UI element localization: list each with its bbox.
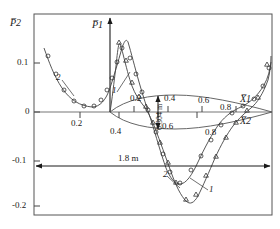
y-tick-0.1: 0.1 (17, 58, 28, 67)
x-upper-tick-0.2: 0.2 (130, 94, 141, 103)
figure-container: P̅2 P̅1 X̅1 X̅2 0.1 0 -0.1 -0.2 0.2 0.4 … (0, 0, 280, 229)
x-upper-tick-0.6: 0.6 (198, 96, 209, 105)
plot-svg (0, 0, 280, 229)
series-1-label-top: 1 (112, 86, 117, 95)
x1-axis-label: X̅1 (240, 94, 251, 104)
x-upper-tick-0.8: 0.8 (220, 103, 231, 112)
p2-axis-label: P̅2 (10, 18, 21, 28)
width-dimension-label: 1.8 m (118, 154, 139, 163)
x2-axis-label: X̅2 (240, 116, 251, 126)
y-tick-neg0.2: -0.2 (12, 201, 26, 210)
x-lower-tick-0.4: 0.4 (110, 127, 121, 136)
series-2-label-bottom: 2 (163, 170, 168, 179)
x-lower-tick-0.8: 0.8 (205, 128, 216, 137)
annotation-leaders (62, 72, 208, 190)
series-1-label-bottom: 1 (209, 185, 214, 194)
x-axis-lower-ticks (80, 112, 197, 118)
y-axis-ticks (34, 63, 40, 206)
x-upper-tick-0.4: 0.4 (164, 94, 175, 103)
series-2-label-left: 2 (56, 73, 61, 82)
y-tick-neg0.1: -0.1 (12, 156, 26, 165)
plot-frame (34, 14, 272, 215)
height-dimension-label: 0.304 m (155, 104, 164, 130)
x-lower-tick-0.2: 0.2 (71, 119, 82, 128)
p1-axis-label: P̅1 (92, 20, 103, 30)
y-tick-0: 0 (25, 107, 30, 116)
